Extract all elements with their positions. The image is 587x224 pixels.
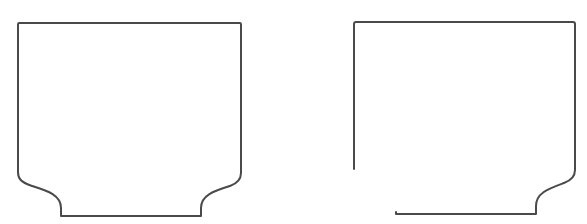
- diagram-canvas: [0, 0, 587, 224]
- right-profile-outline: [354, 22, 575, 214]
- left-profile-outline: [18, 23, 241, 216]
